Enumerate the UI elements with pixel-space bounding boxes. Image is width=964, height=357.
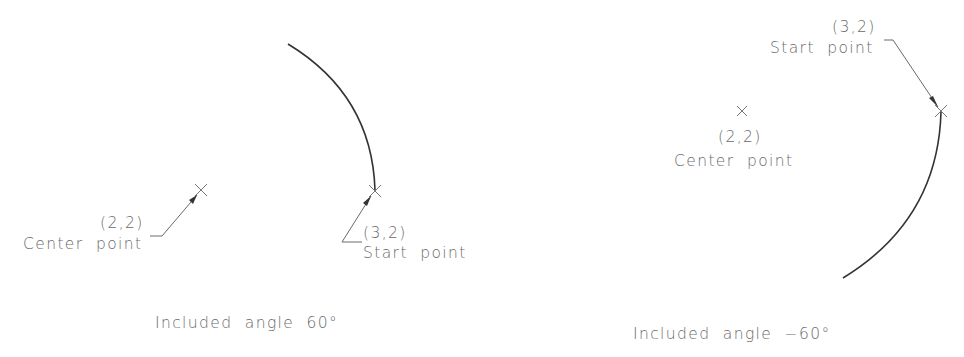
figure-positive-angle [150,44,381,242]
start-point-coord-label: (3,2) [832,20,876,36]
start-point-name-label: Start point [363,246,467,262]
center-point-name-label: Center point [23,237,142,253]
center-point-name-label: Center point [674,154,793,170]
caption-negative-angle: Included angle −60° [633,327,831,343]
start-point-coord-label: (3,2) [363,226,407,242]
start-point-leader [884,40,938,107]
center-point-leader [150,195,197,236]
arc-positive-60 [288,44,375,190]
center-point-coord-label: (2,2) [100,216,144,232]
arc-negative-60 [843,112,941,278]
caption-positive-angle: Included angle 60° [155,316,338,332]
center-point-coord-label: (2,2) [718,130,762,146]
center-point-marker-icon [737,106,747,116]
center-point-marker-icon [195,184,207,196]
start-point-name-label: Start point [770,41,874,57]
